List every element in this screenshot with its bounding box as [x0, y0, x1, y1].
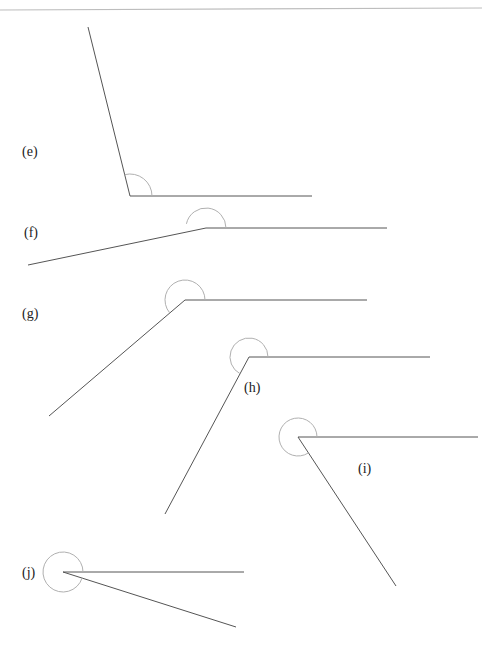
angle-panels [28, 27, 478, 627]
angle-panel-e [88, 27, 312, 196]
ray-1 [28, 228, 206, 265]
angle-panel-j [43, 552, 244, 627]
ray-1 [63, 572, 236, 627]
label-i: (i) [358, 461, 371, 477]
ray-1 [49, 300, 185, 416]
angle-arc [165, 280, 205, 313]
label-j: (j) [22, 565, 35, 581]
label-e: (e) [22, 144, 38, 160]
ray-1 [88, 27, 130, 196]
label-f: (f) [24, 225, 38, 241]
ray-1 [298, 437, 396, 586]
angle-panel-i [279, 418, 478, 586]
label-g: (g) [22, 306, 38, 322]
angle-panel-f [28, 208, 387, 265]
angle-diagram-canvas [0, 0, 501, 646]
label-h: (h) [244, 380, 260, 396]
angle-panel-h [165, 338, 430, 514]
top-border-line [0, 8, 482, 10]
ray-1 [165, 357, 249, 514]
angle-arc [230, 338, 268, 374]
angle-arc [186, 208, 226, 228]
angle-panel-g [49, 280, 367, 416]
